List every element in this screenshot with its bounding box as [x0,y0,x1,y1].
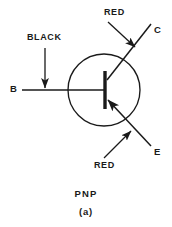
collector-lead-wire [107,24,151,80]
label-terminal-emitter: E [154,147,161,157]
red-annotation-arrow-emitter [104,131,131,158]
label-red-wire-collector: RED [104,8,125,17]
figure-caption-device-name: PNP [0,189,172,199]
figure-canvas: BLACK RED RED B C E PNP (a) [0,0,172,227]
emitter-lead-wire-with-pnp-arrow [108,100,151,146]
label-terminal-collector: C [154,25,161,35]
label-red-wire-emitter: RED [94,161,115,170]
label-terminal-base: B [10,84,17,94]
figure-caption-index: (a) [0,207,172,217]
red-annotation-arrow-collector [108,22,135,47]
label-black-wire: BLACK [27,33,62,42]
